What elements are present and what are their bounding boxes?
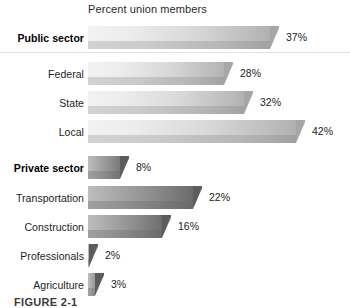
- bar-value-label: 3%: [111, 278, 126, 290]
- bar-value-label: 28%: [240, 67, 261, 79]
- bar-value-label: 2%: [105, 249, 120, 261]
- bar: [88, 120, 305, 146]
- bar-bottom-face: [88, 106, 253, 114]
- bar: [88, 91, 253, 117]
- bar-row-label: Professionals: [0, 250, 84, 262]
- bar-body: [88, 26, 279, 49]
- bar-value-label: 22%: [209, 191, 230, 203]
- bar-row-label: Public sector: [0, 32, 84, 44]
- bar-value-label: 37%: [286, 31, 307, 43]
- bar-row-label: Local: [0, 126, 84, 138]
- bar-row-label: Transportation: [0, 192, 84, 204]
- bar-top-face: [88, 186, 202, 201]
- bar-top-face: [88, 62, 233, 77]
- bar-row: Local42%: [0, 120, 350, 146]
- bar-row: Construction16%: [0, 215, 350, 241]
- figure-caption: FIGURE 2-1: [14, 296, 78, 308]
- bar-row: Federal28%: [0, 62, 350, 88]
- bar: [88, 62, 233, 88]
- bar-row: Private sector8%: [0, 156, 350, 182]
- bar: [88, 244, 98, 270]
- bar-body: [88, 62, 233, 85]
- bar-top-face: [88, 215, 171, 230]
- bar-bottom-face: [88, 201, 202, 209]
- bar: [88, 26, 279, 52]
- bar-top-face: [88, 26, 279, 41]
- bar-row-label: Agriculture: [0, 279, 84, 291]
- bar-value-label: 16%: [178, 220, 199, 232]
- bar-bottom-face: [88, 230, 171, 238]
- bar: [88, 156, 129, 182]
- bar-row-label: Private sector: [0, 162, 84, 174]
- bar-row: Professionals2%: [0, 244, 350, 270]
- bar-row: Public sector37%: [0, 26, 350, 52]
- bar-bottom-face: [88, 135, 305, 143]
- bar: [88, 186, 202, 212]
- bar-row: State32%: [0, 91, 350, 117]
- bar-row-label: State: [0, 97, 84, 109]
- bar-body: [88, 186, 202, 209]
- bar-row: Transportation22%: [0, 186, 350, 212]
- bar-bottom-face: [88, 77, 233, 85]
- bar: [88, 215, 171, 241]
- bar-row-label: Construction: [0, 221, 84, 233]
- bar-value-label: 8%: [136, 161, 151, 173]
- bar-body: [88, 120, 305, 143]
- bar-value-label: 32%: [260, 96, 281, 108]
- bar-body: [88, 215, 171, 238]
- bar-row-label: Federal: [0, 68, 84, 80]
- bar-top-face: [88, 91, 253, 106]
- bar-value-label: 42%: [312, 125, 333, 137]
- bar-body: [88, 91, 253, 114]
- bar-top-face: [88, 120, 305, 135]
- bar: [88, 273, 104, 299]
- bar-bottom-face: [88, 41, 279, 49]
